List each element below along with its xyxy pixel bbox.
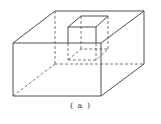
big-box-hidden-bottom-left-edge [13,64,55,96]
small-cube-bottom-face [68,49,108,60]
small-cube [68,16,108,60]
small-cube-top-face [68,16,108,27]
big-box [13,11,144,96]
big-box-bottom-right-edge [101,64,144,96]
big-box-front-face [13,43,101,96]
big-box-top-left-edge [13,11,55,43]
figure-caption: ( a ) [0,101,161,110]
